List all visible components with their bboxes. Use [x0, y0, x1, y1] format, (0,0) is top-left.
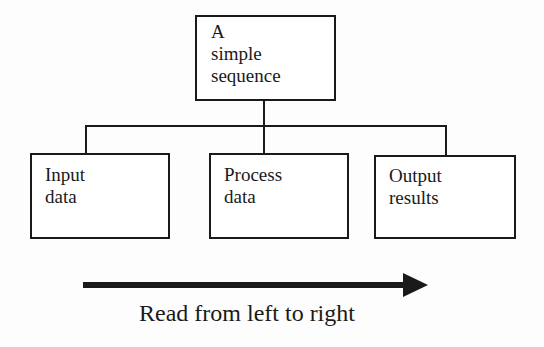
right-arrow-icon	[0, 0, 544, 347]
arrow-caption: Read from left to right	[0, 300, 544, 327]
